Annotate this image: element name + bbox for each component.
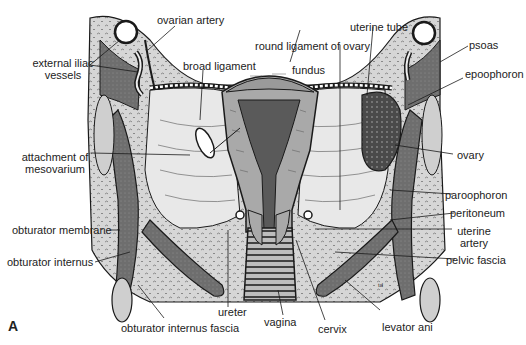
label-attachment-line2: mesovarium — [20, 163, 90, 175]
label-psoas: psoas — [469, 39, 498, 51]
panel-letter: A — [8, 318, 18, 334]
label-obturator-internus: obturator internus — [7, 256, 93, 268]
right-external-iliac-artery — [413, 22, 435, 44]
label-round-ligament-of-ovary: round ligament of ovary — [255, 40, 370, 52]
vagina-wall — [244, 228, 296, 300]
label-peritoneum: peritoneum — [450, 207, 505, 219]
label-levator-ani: levator ani — [382, 321, 433, 333]
left-ureter — [236, 211, 244, 219]
right-ischium-upper — [422, 95, 442, 175]
label-paroophoron: paroophoron — [445, 189, 507, 201]
label-obturator-membrane: obturator membrane — [12, 224, 112, 236]
svg-text:td: td — [378, 282, 383, 288]
label-pelvic-fascia: pelvic fascia — [446, 254, 506, 266]
label-uterine-artery-line2: artery — [449, 237, 499, 249]
label-cervix: cervix — [318, 323, 347, 335]
right-ureter — [304, 211, 312, 219]
label-attachment-line1: attachment of — [20, 151, 90, 163]
label-obturator-internus-fascia: obturator internus fascia — [121, 322, 239, 334]
label-epoophoron: epoophoron — [465, 68, 524, 80]
label-uterine-artery-line1: uterine — [449, 225, 499, 237]
right-ischium-lower — [420, 278, 440, 322]
left-external-iliac-artery — [115, 21, 137, 43]
label-ureter: ureter — [218, 306, 247, 318]
left-ischium-upper — [94, 95, 114, 175]
label-broad-ligament: broad ligament — [183, 60, 256, 72]
anatomy-diagram: td ovarian artery external iliac vessels… — [0, 0, 526, 345]
label-vagina: vagina — [264, 316, 296, 328]
label-ovarian-artery: ovarian artery — [157, 14, 224, 26]
label-external-iliac-vessels: external iliac vessels — [28, 57, 98, 81]
label-ovary: ovary — [457, 149, 484, 161]
label-uterine-tube: uterine tube — [350, 21, 408, 33]
left-ischium-lower — [112, 278, 132, 322]
label-external-iliac-line2: vessels — [28, 69, 98, 81]
label-uterine-artery: uterine artery — [449, 225, 499, 249]
label-fundus: fundus — [292, 64, 325, 76]
label-external-iliac-line1: external iliac — [28, 57, 98, 69]
label-attachment-of-mesovarium: attachment of mesovarium — [20, 151, 90, 175]
